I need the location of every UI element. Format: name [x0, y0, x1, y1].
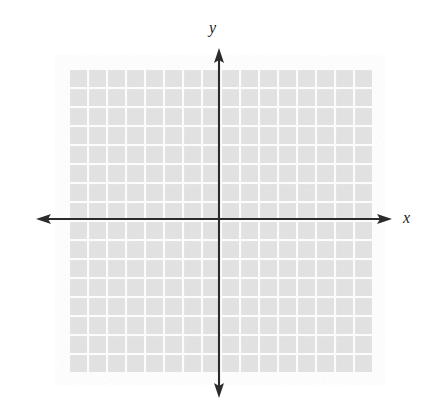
coordinate-plane-figure: y x: [0, 0, 427, 418]
x-axis-label: x: [403, 210, 410, 226]
graph-canvas: [0, 0, 427, 418]
y-axis-label: y: [209, 20, 216, 36]
